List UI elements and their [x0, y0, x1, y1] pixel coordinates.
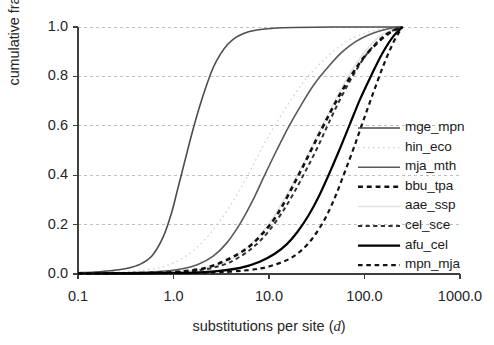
x-tick-label: 1.0 [134, 288, 214, 304]
chart-figure: cumulative fraction substitutions per si… [0, 0, 494, 345]
y-tick-label: 0.6 [22, 117, 68, 133]
x-tick-label: 0.1 [38, 288, 118, 304]
legend-label-aae_ssp: aae_ssp [405, 197, 455, 212]
legend-label-mge_mpn: mge_mpn [405, 119, 464, 134]
legend-label-mja_mth: mja_mth [405, 158, 456, 173]
x-tick-label: 100.0 [325, 288, 405, 304]
x-axis-title-symbol: d [333, 318, 340, 334]
x-tick-label: 1000.0 [420, 288, 494, 304]
y-tick-label: 1.0 [22, 18, 68, 34]
series-line-mpn_mja [78, 27, 403, 274]
legend-label-hin_eco: hin_eco [405, 139, 452, 154]
legend-label-mpn_mja: mpn_mja [405, 256, 460, 271]
y-tick-label: 0.2 [22, 216, 68, 232]
y-tick-label: 0.0 [22, 265, 68, 281]
legend-label-bbu_tpa: bbu_tpa [405, 178, 453, 193]
y-tick-label: 0.8 [22, 67, 68, 83]
y-axis-title: cumulative fraction [6, 0, 22, 96]
legend-label-afu_cel: afu_cel [405, 237, 448, 252]
x-axis-title-suffix: ) [341, 318, 346, 334]
x-tick-label: 10.0 [229, 288, 309, 304]
x-axis-title: substitutions per site (d) [78, 318, 460, 335]
x-axis-title-prefix: substitutions per site ( [192, 318, 333, 334]
y-tick-label: 0.4 [22, 166, 68, 182]
legend-label-cel_sce: cel_sce [405, 217, 450, 232]
